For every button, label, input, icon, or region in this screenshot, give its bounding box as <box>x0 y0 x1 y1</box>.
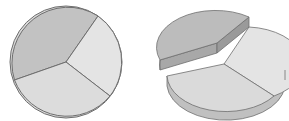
pie-chart-comparison <box>0 0 289 121</box>
flat-pie-chart <box>0 0 289 121</box>
exploded-3d-pie <box>157 10 289 120</box>
flat-pie <box>10 6 122 118</box>
